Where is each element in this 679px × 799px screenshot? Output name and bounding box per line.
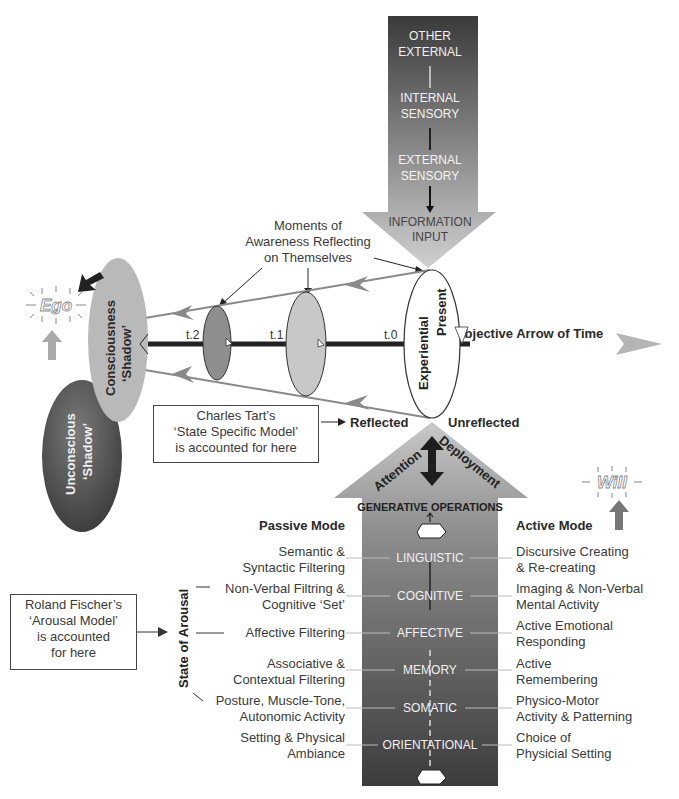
reflected-label: Reflected (350, 415, 409, 430)
active-mode-column: Active Mode Discursive Creating & Re-cre… (516, 518, 643, 761)
ego-label: Ego (40, 296, 72, 315)
input-stage-internal-sensory: SENSORY (401, 107, 459, 121)
diagram-canvas: OTHER EXTERNAL INTERNAL SENSORY EXTERNAL… (0, 0, 679, 799)
svg-text:SOMATIC: SOMATIC (403, 701, 457, 715)
t0-label: t.0 (384, 328, 398, 342)
svg-text:Awareness Reflecting: Awareness Reflecting (245, 234, 371, 249)
moment-disc-t2 (203, 306, 232, 380)
svg-text:Active Emotional: Active Emotional (516, 618, 613, 633)
input-stage-internal: INTERNAL (400, 91, 460, 105)
passive-mode-column: Passive Mode Semantic & Syntactic Filter… (216, 518, 346, 761)
svg-text:Consciousness: Consciousness (103, 300, 118, 396)
awareness-model-diagram: OTHER EXTERNAL INTERNAL SENSORY EXTERNAL… (0, 0, 679, 799)
t2-label: t.2 (186, 328, 200, 342)
svg-text:Cognitive ‘Set’: Cognitive ‘Set’ (262, 597, 345, 612)
svg-text:Syntactic Filtering: Syntactic Filtering (242, 560, 345, 575)
svg-text:Autonomic Activity: Autonomic Activity (240, 709, 346, 724)
input-stage-external: EXTERNAL (398, 45, 462, 59)
svg-text:Non-Verbal Filtring &: Non-Verbal Filtring & (225, 581, 345, 596)
input-stage-external-2: EXTERNAL (398, 153, 462, 167)
svg-text:Setting & Physical: Setting & Physical (240, 730, 345, 745)
will-label: Will (597, 473, 628, 492)
svg-text:Imaging & Non-Verbal: Imaging & Non-Verbal (516, 581, 643, 596)
bottom-stack-icon (417, 770, 446, 784)
svg-text:Associative &: Associative & (267, 656, 345, 671)
svg-text:Semantic &: Semantic & (279, 544, 346, 559)
tart-model-box: Charles Tart’s ‘State Specific Model’ is… (153, 405, 319, 463)
svg-text:Contextual Filtering: Contextual Filtering (233, 672, 345, 687)
generative-label: GENERATIVE OPERATIONS (357, 501, 503, 513)
input-stage-other: OTHER (409, 29, 451, 43)
svg-text:Moments of: Moments of (274, 218, 342, 233)
svg-text:Posture, Muscle-Tone,: Posture, Muscle-Tone, (216, 693, 345, 708)
unreflected-label: Unreflected (448, 415, 520, 430)
information-label: INFORMATION (388, 215, 471, 229)
experiential-present-disc: Experiential Present (404, 270, 470, 418)
svg-text:Choice of: Choice of (516, 730, 571, 745)
svg-text:Activity & Patterning: Activity & Patterning (516, 709, 632, 724)
top-stack-icon (417, 524, 446, 538)
will-up-arrow-icon (609, 500, 629, 530)
input-stage-external-sensory: SENSORY (401, 169, 459, 183)
active-mode-heading: Active Mode (516, 518, 593, 533)
svg-text:Active: Active (516, 656, 551, 671)
svg-text:MEMORY: MEMORY (403, 663, 457, 677)
svg-text:Affective Filtering: Affective Filtering (246, 625, 345, 640)
time-arrow-label: Subjective Arrow of Time (448, 326, 603, 341)
svg-text:‘Shadow’: ‘Shadow’ (119, 325, 134, 382)
svg-text:Unconscious: Unconscious (63, 413, 78, 495)
svg-text:Present: Present (434, 288, 449, 336)
svg-text:Mental Activity: Mental Activity (516, 597, 600, 612)
consciousness-shadow: Consciousness ‘Shadow’ (88, 258, 148, 422)
fischer-model-box: Roland Fischer’s ‘Arousal Model’ is acco… (10, 594, 137, 670)
ego-up-arrow-icon (42, 330, 62, 360)
input-label: INPUT (412, 230, 449, 244)
generative-operations-arrow: Attention Deployment GENERATIVE OPERATIO… (334, 422, 528, 786)
svg-text:Experiential: Experiential (416, 316, 431, 390)
svg-text:on Themselves: on Themselves (264, 250, 352, 265)
svg-text:LINGUISTIC: LINGUISTIC (396, 551, 464, 565)
svg-text:‘Shadow’: ‘Shadow’ (80, 423, 95, 480)
svg-text:ORIENTATIONAL: ORIENTATIONAL (383, 738, 478, 752)
passive-mode-heading: Passive Mode (259, 518, 345, 533)
t1-label: t.1 (270, 328, 284, 342)
svg-text:Discursive Creating: Discursive Creating (516, 544, 629, 559)
svg-text:Physicial Setting: Physicial Setting (516, 746, 611, 761)
svg-text:Remembering: Remembering (516, 672, 598, 687)
moment-disc-t1 (286, 292, 326, 396)
svg-text:AFFECTIVE: AFFECTIVE (397, 626, 463, 640)
svg-text:Physico-Motor: Physico-Motor (516, 693, 600, 708)
svg-text:State of Arousal: State of Arousal (176, 589, 191, 688)
information-input-arrow: OTHER EXTERNAL INTERNAL SENSORY EXTERNAL… (362, 16, 496, 268)
svg-text:& Re-creating: & Re-creating (516, 560, 595, 575)
state-of-arousal: State of Arousal (137, 587, 224, 701)
svg-text:Responding: Responding (516, 634, 585, 649)
svg-text:Ambiance: Ambiance (287, 746, 345, 761)
svg-text:COGNITIVE: COGNITIVE (397, 589, 463, 603)
